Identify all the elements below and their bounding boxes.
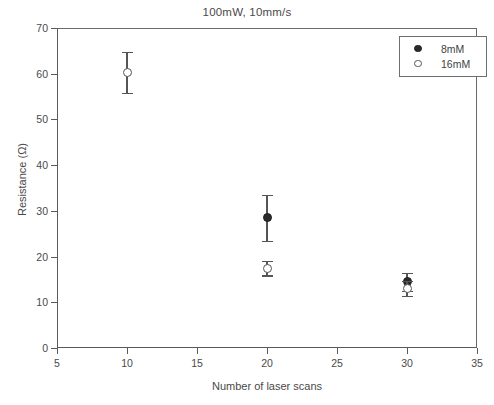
x-axis-tick-label: 25: [331, 357, 343, 369]
chart-legend: 8mM 16mM: [399, 36, 487, 77]
y-axis-tick-label: 70: [36, 22, 48, 34]
y-axis-tick-label: 60: [36, 68, 48, 80]
y-axis-tick-label: 10: [36, 296, 48, 308]
y-axis-tick: [51, 211, 57, 212]
x-axis-tick: [127, 348, 128, 354]
x-axis-tick: [57, 348, 58, 354]
y-axis-tick: [51, 119, 57, 120]
chart-figure: 100mW, 10mm/s 01020304050607051015202530…: [0, 0, 494, 405]
x-axis-tick-label: 15: [191, 357, 203, 369]
x-axis-tick-label: 20: [261, 357, 273, 369]
legend-entry-16mM: 16mM: [407, 56, 481, 71]
y-axis-tick: [51, 302, 57, 303]
y-axis-tick-label: 50: [36, 113, 48, 125]
y-axis-tick-label: 40: [36, 159, 48, 171]
y-axis-tick: [51, 257, 57, 258]
x-axis-tick: [477, 348, 478, 354]
error-bar-cap: [262, 241, 273, 242]
y-axis-tick: [51, 165, 57, 166]
chart-title: 100mW, 10mm/s: [0, 6, 494, 18]
error-bar-cap: [402, 296, 413, 297]
legend-entry-8mM: 8mM: [407, 41, 481, 56]
open-circle-icon: [407, 60, 429, 68]
x-axis-tick-label: 30: [401, 357, 413, 369]
y-axis-tick-label: 0: [42, 342, 48, 354]
error-bar-cap: [122, 52, 133, 53]
y-axis-title: Resistance (Ω): [16, 143, 28, 216]
x-axis-tick: [337, 348, 338, 354]
error-bar-cap: [402, 273, 413, 274]
x-axis-tick-label: 35: [471, 357, 483, 369]
x-axis-tick-label: 10: [121, 357, 133, 369]
x-axis-tick: [267, 348, 268, 354]
x-axis-tick: [197, 348, 198, 354]
y-axis-tick: [51, 28, 57, 29]
error-bar-cap: [402, 281, 413, 282]
open-circle-marker: [403, 284, 412, 293]
y-axis-tick-label: 20: [36, 251, 48, 263]
legend-label-16mM: 16mM: [441, 58, 470, 70]
filled-circle-icon: [407, 45, 429, 53]
y-axis-tick: [51, 74, 57, 75]
open-circle-marker: [263, 264, 272, 273]
error-bar-cap: [122, 93, 133, 94]
x-axis-tick-label: 5: [54, 357, 60, 369]
legend-label-8mM: 8mM: [441, 43, 464, 55]
filled-circle-marker: [263, 213, 272, 222]
open-circle-marker: [123, 68, 132, 77]
x-axis-title: Number of laser scans: [57, 380, 477, 392]
x-axis-tick: [407, 348, 408, 354]
error-bar-cap: [262, 195, 273, 196]
y-axis-tick-label: 30: [36, 205, 48, 217]
error-bar-cap: [262, 261, 273, 262]
error-bar-cap: [262, 275, 273, 276]
